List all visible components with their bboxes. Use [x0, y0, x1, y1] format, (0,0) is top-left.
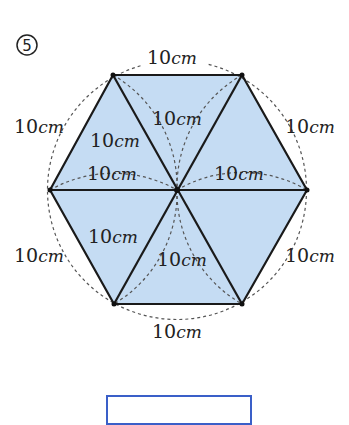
problem-number: 5: [17, 35, 37, 55]
label-inner-lower-left: 10cm: [88, 225, 138, 247]
answer-box[interactable]: [106, 395, 252, 425]
label-upper-left: 10cm: [14, 115, 64, 137]
label-inner-upper-left: 10cm: [90, 129, 140, 151]
label-upper-right: 10cm: [285, 115, 335, 137]
label-lower-right: 10cm: [285, 244, 335, 266]
label-bottom: 10cm: [152, 320, 202, 342]
svg-text:5: 5: [22, 37, 32, 55]
label-top: 10cm: [147, 46, 197, 68]
label-inner-lower-center: 10cm: [157, 248, 207, 270]
label-lower-left: 10cm: [14, 244, 64, 266]
label-inner-upper-center: 10cm: [152, 107, 202, 129]
label-inner-left-mid: 10cm: [87, 162, 137, 184]
label-inner-right-mid: 10cm: [214, 162, 264, 184]
